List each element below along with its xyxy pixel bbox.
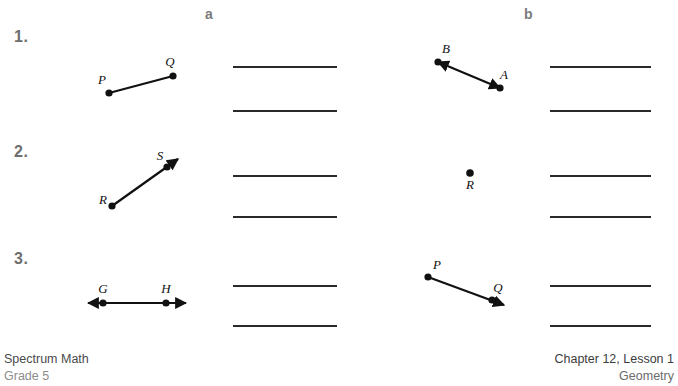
- problem-number-2: 2.: [14, 143, 28, 161]
- point-p-label: P: [97, 72, 106, 87]
- answer-line-1a-2[interactable]: [233, 110, 337, 112]
- point-g-label: G: [98, 281, 108, 296]
- answer-line-2a-1[interactable]: [233, 175, 337, 177]
- footer-title: Spectrum Math: [4, 352, 89, 366]
- point-p-dot: [105, 89, 112, 96]
- point-p-dot: [424, 273, 431, 280]
- point-s-dot: [163, 163, 170, 170]
- figure-1a-segment-pq: P Q: [88, 50, 198, 110]
- worksheet-page: a b 1. 2. 3. P Q: [0, 0, 678, 386]
- point-r-dot: [108, 202, 115, 209]
- problem-number-1: 1.: [14, 28, 28, 46]
- figure-3b-ray-pq: P Q: [412, 256, 524, 318]
- answer-line-2b-2[interactable]: [550, 216, 651, 218]
- answer-line-3a-1[interactable]: [233, 285, 337, 287]
- problem-number-3: 3.: [14, 250, 28, 268]
- footer-subject: Geometry: [619, 369, 674, 383]
- point-r-label: R: [465, 177, 474, 192]
- answer-line-1b-1[interactable]: [550, 66, 651, 68]
- point-s-label: S: [157, 148, 164, 163]
- figure-1b-line-ab: B A: [412, 38, 532, 104]
- point-b-dot: [434, 58, 441, 65]
- point-q-label: Q: [493, 280, 503, 295]
- answer-line-3b-2[interactable]: [550, 325, 651, 327]
- answer-line-3b-1[interactable]: [550, 285, 651, 287]
- column-header-a: a: [205, 6, 213, 22]
- point-p-label: P: [432, 257, 441, 272]
- answer-line-3a-2[interactable]: [233, 325, 337, 327]
- point-h-label: H: [160, 281, 171, 296]
- point-g-dot: [99, 299, 106, 306]
- point-q-dot: [488, 296, 495, 303]
- segment-pq-line: [109, 76, 173, 93]
- answer-line-2a-2[interactable]: [233, 216, 337, 218]
- figure-2b-point-r: R: [455, 162, 495, 198]
- point-q-label: Q: [165, 54, 175, 69]
- footer-chapter-lesson: Chapter 12, Lesson 1: [554, 352, 674, 366]
- point-b-label: B: [442, 41, 450, 56]
- point-q-dot: [169, 72, 176, 79]
- point-a-label: A: [499, 67, 508, 82]
- point-r-label: R: [98, 192, 107, 207]
- figure-2a-ray-rs: R S: [98, 146, 206, 214]
- footer-grade: Grade 5: [4, 369, 49, 383]
- answer-line-2b-1[interactable]: [550, 175, 651, 177]
- point-h-dot: [162, 299, 169, 306]
- line-ab-line: [438, 62, 500, 88]
- point-r-dot: [466, 169, 474, 177]
- column-header-b: b: [524, 6, 533, 22]
- answer-line-1b-2[interactable]: [550, 110, 651, 112]
- figure-3a-line-gh: G H: [76, 282, 198, 320]
- point-a-dot: [496, 84, 503, 91]
- answer-line-1a-1[interactable]: [233, 66, 337, 68]
